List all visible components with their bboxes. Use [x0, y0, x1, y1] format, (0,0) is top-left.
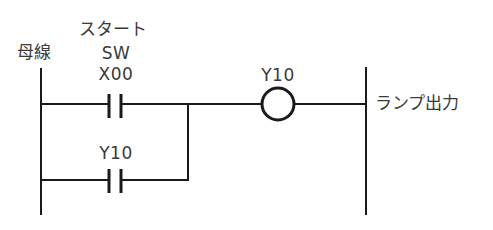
- coil-y10-device-label: Y10: [261, 67, 295, 84]
- contact-x00-caption-line2: SW: [102, 45, 131, 62]
- contact-y10-icon: [109, 169, 121, 193]
- contact-x00-icon: [109, 94, 121, 118]
- ladder-diagram-graphic: [0, 0, 493, 230]
- left-rail-label: 母線: [17, 44, 51, 61]
- contact-x00-device-label: X00: [99, 66, 134, 83]
- right-rail-label: ランプ出力: [375, 95, 459, 112]
- contact-x00-caption-line1: スタート: [79, 21, 147, 38]
- ladder-diagram: 母線 スタート SW X00 Y10 ランプ出力 Y10: [0, 0, 493, 230]
- coil-y10-icon: [262, 88, 294, 120]
- contact-y10-device-label: Y10: [99, 145, 133, 162]
